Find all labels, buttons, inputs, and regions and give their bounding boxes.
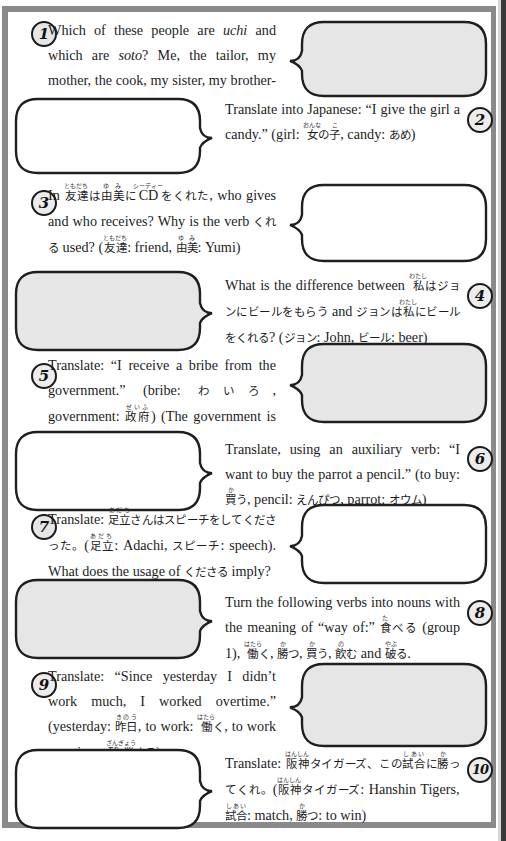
answer-bubble[interactable] (14, 578, 214, 660)
answer-bubble[interactable] (14, 430, 214, 512)
exercise-prompt: Translate: 足立あだちさんはスピーチをしてくださった。(足立あだち: … (48, 506, 276, 585)
answer-bubble[interactable] (288, 503, 488, 585)
exercise-prompt: Translate into Japanese: “I give the gir… (225, 97, 460, 148)
exercise-prompt: Translate, using an auxiliary verb: “I w… (225, 437, 460, 513)
answer-bubble[interactable] (288, 662, 488, 748)
answer-bubble[interactable] (14, 748, 214, 830)
answer-bubble[interactable] (14, 270, 214, 352)
speech-bubble-icon (14, 578, 214, 660)
speech-bubble-icon (288, 342, 488, 424)
speech-bubble-icon (14, 430, 214, 512)
page-edge-shadow (501, 0, 506, 841)
speech-bubble-icon (14, 97, 214, 175)
answer-bubble[interactable] (288, 183, 488, 263)
speech-bubble-icon (14, 270, 214, 352)
answer-bubble[interactable] (288, 342, 488, 424)
exercise-number-badge: 10 (467, 757, 493, 783)
speech-bubble-icon (288, 20, 488, 98)
exercise-number-badge: 4 (467, 283, 493, 309)
exercise-prompt: In 友達ともだちは由美ゆみにCDシーディーをくれた, who gives an… (48, 182, 276, 261)
speech-bubble-icon (288, 503, 488, 585)
exercise-number-badge: 6 (467, 446, 493, 472)
speech-bubble-icon (14, 748, 214, 830)
answer-bubble[interactable] (288, 20, 488, 98)
speech-bubble-icon (288, 183, 488, 263)
speech-bubble-icon (288, 662, 488, 748)
exercise-prompt: Turn the following verbs into nouns with… (225, 590, 460, 667)
exercise-number-badge: 2 (467, 107, 493, 133)
answer-bubble[interactable] (14, 97, 214, 175)
exercise-prompt: What is the difference between 私わたしはジョンに… (225, 272, 460, 351)
exercise-prompt: Translate: 阪神はんしんタイガーズ、この試合しあいに勝かってくれ。(阪… (225, 750, 460, 829)
exercise-number-badge: 8 (467, 600, 493, 626)
